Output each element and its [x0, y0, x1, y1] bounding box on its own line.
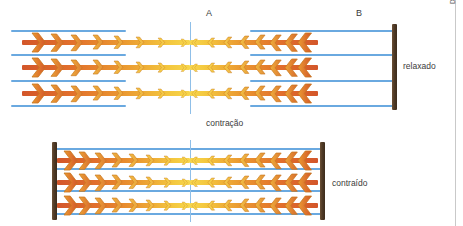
- right-border-rule: [455, 0, 456, 226]
- actin-filament: [11, 54, 126, 56]
- diagram-canvas: Davidson França A B relaxado contração c…: [0, 0, 463, 226]
- myosin-filament-left-half: [57, 151, 190, 170]
- myosin-filament-right-half: [190, 151, 318, 170]
- myosin-filament-right-half: [190, 84, 318, 103]
- transition-label-contraction: contração: [206, 118, 243, 128]
- actin-filament: [250, 105, 394, 107]
- myosin-filament-left-half: [22, 58, 190, 77]
- z-disc-right: [392, 24, 397, 110]
- state-label-contracted: contraído: [332, 178, 367, 188]
- actin-filament: [11, 30, 126, 32]
- state-label-relaxed: relaxado: [403, 61, 436, 71]
- actin-filament: [250, 80, 394, 82]
- actin-filament: [11, 105, 126, 107]
- myosin-filament-right-half: [190, 196, 318, 215]
- myosin-filament-right-half: [190, 173, 318, 192]
- actin-filament: [250, 30, 394, 32]
- myosin-filament-left-half: [57, 173, 190, 192]
- credit-watermark: Davidson França: [449, 0, 456, 4]
- actin-filament: [250, 54, 394, 56]
- band-label-b: B: [356, 8, 362, 18]
- band-label-a: A: [206, 8, 212, 18]
- actin-filament: [11, 80, 126, 82]
- myosin-filament-left-half: [22, 84, 190, 103]
- myosin-filament-right-half: [190, 58, 318, 77]
- actin-filament: [56, 148, 322, 150]
- z-disc-right: [320, 142, 325, 220]
- myosin-filament-left-half: [57, 196, 190, 215]
- myosin-filament-right-half: [190, 33, 318, 52]
- myosin-filament-left-half: [22, 33, 190, 52]
